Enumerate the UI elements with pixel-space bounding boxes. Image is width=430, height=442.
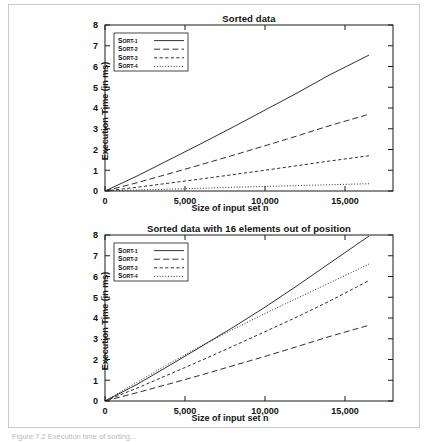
- plot-area: 01234567805,00010,00015,000SORT-1SORT-2S…: [9, 221, 421, 429]
- svg-text:2: 2: [93, 145, 98, 155]
- figure-stack: Sorted data Execution Time (in ms) Size …: [9, 5, 419, 427]
- svg-text:SORT-3: SORT-3: [118, 264, 138, 271]
- svg-text:3: 3: [93, 334, 98, 344]
- svg-text:6: 6: [93, 62, 98, 72]
- svg-text:10,000: 10,000: [251, 406, 279, 416]
- svg-text:SORT-1: SORT-1: [118, 37, 138, 44]
- svg-text:7: 7: [93, 251, 98, 261]
- chart-sorted-data-16-out-of-position: Sorted data with 16 elements out of posi…: [9, 221, 421, 429]
- svg-text:1: 1: [93, 376, 98, 386]
- svg-text:SORT-4: SORT-4: [118, 62, 138, 69]
- svg-text:5: 5: [93, 293, 98, 303]
- svg-text:5,000: 5,000: [174, 196, 197, 206]
- svg-text:0: 0: [102, 406, 107, 416]
- svg-text:2: 2: [93, 355, 98, 365]
- svg-text:6: 6: [93, 272, 98, 282]
- svg-text:4: 4: [93, 313, 98, 323]
- svg-text:5,000: 5,000: [174, 406, 197, 416]
- svg-text:8: 8: [93, 20, 98, 30]
- svg-text:SORT-2: SORT-2: [118, 255, 138, 262]
- figure-caption: Figure 7.2 Execution time of sorting...: [12, 432, 412, 441]
- svg-text:5: 5: [93, 83, 98, 93]
- svg-text:0: 0: [102, 196, 107, 206]
- svg-text:0: 0: [93, 396, 98, 406]
- svg-text:15,000: 15,000: [331, 196, 359, 206]
- chart-sorted-data: Sorted data Execution Time (in ms) Size …: [9, 11, 421, 219]
- svg-text:8: 8: [93, 230, 98, 240]
- svg-text:SORT-1: SORT-1: [118, 247, 138, 254]
- svg-text:4: 4: [93, 103, 98, 113]
- svg-text:SORT-4: SORT-4: [118, 272, 138, 279]
- svg-text:7: 7: [93, 41, 98, 51]
- svg-text:15,000: 15,000: [331, 406, 359, 416]
- plot-area: 01234567805,00010,00015,000SORT-1SORT-2S…: [9, 11, 421, 219]
- svg-text:0: 0: [93, 186, 98, 196]
- svg-text:10,000: 10,000: [251, 196, 279, 206]
- svg-text:3: 3: [93, 124, 98, 134]
- svg-text:SORT-2: SORT-2: [118, 45, 138, 52]
- page-frame: Sorted data Execution Time (in ms) Size …: [8, 4, 420, 428]
- svg-text:1: 1: [93, 166, 98, 176]
- svg-text:SORT-3: SORT-3: [118, 54, 138, 61]
